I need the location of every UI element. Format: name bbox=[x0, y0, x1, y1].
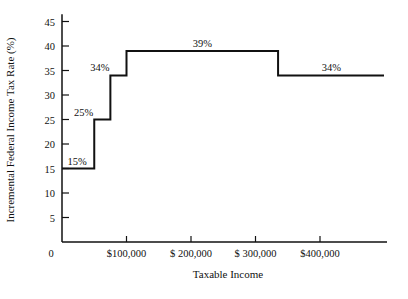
y-tick-label: 10 bbox=[45, 188, 56, 199]
x-tick-label: $400,000 bbox=[300, 248, 339, 259]
y-tick-label: 25 bbox=[45, 115, 56, 126]
x-axis-title: Taxable Income bbox=[193, 268, 264, 280]
x-axis-ticks: 0$100,000$ 200,000$ 300,000$400,000 bbox=[48, 236, 339, 259]
y-tick-label: 15 bbox=[45, 164, 56, 175]
x-tick-label: $ 300,000 bbox=[235, 248, 277, 259]
tax-rate-step-chart: 51015202530354045 0$100,000$ 200,000$ 30… bbox=[0, 0, 408, 299]
axes bbox=[62, 14, 387, 242]
y-tick-label: 45 bbox=[45, 17, 56, 28]
step-rate-label: 34% bbox=[90, 62, 110, 73]
y-axis-ticks: 51015202530354045 bbox=[45, 17, 70, 224]
step-rate-label: 15% bbox=[67, 156, 87, 167]
y-tick-label: 35 bbox=[45, 66, 56, 77]
y-tick-label: 40 bbox=[45, 41, 56, 52]
y-axis-title: Incremental Federal Income Tax Rate (%) bbox=[4, 37, 17, 222]
x-tick-label: $100,000 bbox=[107, 248, 146, 259]
data-labels: 15%25%34%39%34% bbox=[67, 38, 341, 167]
step-rate-label: 25% bbox=[74, 107, 94, 118]
step-rate-label: 34% bbox=[322, 62, 342, 73]
step-rate-label: 39% bbox=[193, 38, 213, 49]
x-tick-label: $ 200,000 bbox=[170, 248, 212, 259]
y-tick-label: 30 bbox=[45, 90, 56, 101]
y-tick-label: 5 bbox=[50, 213, 55, 224]
y-tick-label: 20 bbox=[45, 139, 56, 150]
x-tick-label: 0 bbox=[48, 248, 53, 259]
